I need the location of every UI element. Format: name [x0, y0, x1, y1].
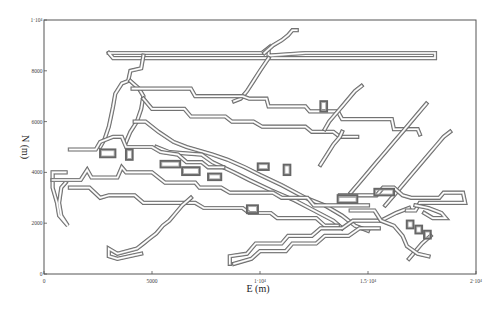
blob-12	[416, 226, 422, 234]
trace-top-step-ne	[264, 30, 296, 53]
blob-3	[161, 161, 180, 167]
blob-1	[100, 150, 115, 158]
trace-east-small-loop	[416, 205, 446, 218]
y-tick-label: 2000	[32, 220, 43, 226]
blob-5	[208, 174, 221, 180]
trace-east-upper-stair-2	[321, 132, 343, 165]
trace-west-upper	[100, 56, 143, 147]
y-tick-label: 4000	[32, 169, 43, 175]
trace-lines	[53, 30, 466, 264]
blob-14	[247, 205, 258, 213]
y-tick-label: 6000	[32, 119, 43, 125]
y-axis-ticks: 020004000600080001·10⁴	[31, 17, 48, 277]
x-tick-label: 0	[43, 278, 46, 284]
blob-7	[284, 165, 290, 175]
blob-10	[320, 101, 326, 111]
blob-4	[182, 167, 199, 175]
trace-east-upper-stair-1	[325, 86, 362, 129]
trace-top-horizontal	[109, 48, 435, 58]
blob-8	[338, 195, 357, 203]
y-tick-label: 1·10⁴	[31, 17, 43, 23]
x-axis-title: E (m)	[246, 283, 269, 295]
blob-6	[258, 164, 269, 170]
y-axis-title: N (m)	[19, 135, 31, 159]
y-tick-label: 0	[40, 271, 43, 277]
blob-13	[424, 231, 430, 239]
trace-map-chart: 050001·10⁴1.5·10⁴2·10⁴ 02000400060008000…	[0, 0, 504, 312]
x-tick-label: 5000	[147, 278, 158, 284]
blob-11	[407, 221, 413, 229]
x-tick-label: 2·10⁴	[470, 278, 482, 284]
trace-sw-staircase	[109, 198, 191, 259]
blob-2	[126, 150, 132, 160]
x-tick-label: 1.5·10⁴	[360, 278, 376, 284]
y-tick-label: 8000	[32, 68, 43, 74]
